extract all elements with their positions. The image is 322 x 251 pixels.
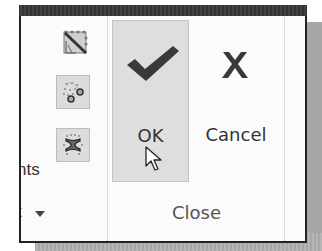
- ok-label: OK: [113, 125, 188, 146]
- ribbon-top-bar: [19, 5, 307, 16]
- close-group-label: Close: [109, 202, 284, 223]
- checkmark-icon: [125, 43, 181, 83]
- group-label-partial: nts: [19, 160, 40, 180]
- ribbon-panel: nts t OK Cancel Close: [19, 5, 307, 243]
- chevron-down-icon[interactable]: [35, 211, 45, 217]
- mouse-pointer-icon: [145, 146, 163, 172]
- ok-button[interactable]: OK: [112, 20, 189, 182]
- group-label-partial-bottom: t: [19, 202, 22, 222]
- node-path-button[interactable]: [56, 75, 90, 109]
- cancel-label: Cancel: [191, 124, 281, 145]
- group-divider: [107, 16, 108, 241]
- x-icon: [220, 50, 250, 80]
- edge-diagonal-grid-icon: [62, 29, 88, 55]
- i-beam-snap-icon: [59, 131, 87, 159]
- cancel-button[interactable]: Cancel: [191, 20, 281, 182]
- node-path-icon: [59, 78, 87, 106]
- i-beam-snap-button[interactable]: [56, 128, 90, 162]
- edge-diagonal-button[interactable]: [60, 27, 90, 57]
- window-shadow-right: [306, 22, 322, 251]
- group-divider: [284, 16, 285, 241]
